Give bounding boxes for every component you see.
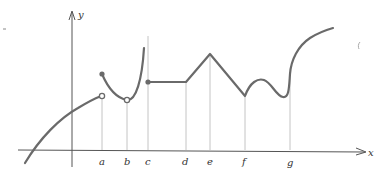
filled-point-c <box>145 79 150 84</box>
x-axis <box>18 150 364 152</box>
open-circle-b <box>124 97 129 102</box>
filled-point-a <box>99 71 104 76</box>
y-axis-label: y <box>77 9 84 20</box>
tick-label-g: g <box>287 157 293 168</box>
tick-label-d: d <box>182 156 188 167</box>
function-graph: x y a b c d e f g <box>0 0 376 176</box>
tick-label-c: c <box>145 156 151 167</box>
curve-piece-right <box>148 28 333 97</box>
tick-label-b: b <box>124 156 130 167</box>
curve-piece-a-to-c <box>102 48 144 100</box>
curve-piece-left <box>25 97 100 164</box>
tick-label-a: a <box>99 156 105 167</box>
tick-label-f: f <box>241 156 248 167</box>
stray-mark-right <box>358 42 360 49</box>
open-circle-a <box>99 93 104 98</box>
x-axis-label: x <box>368 147 374 158</box>
tick-label-e: e <box>207 156 213 167</box>
